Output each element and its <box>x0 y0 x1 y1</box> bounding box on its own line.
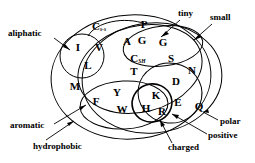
residue-V: V <box>95 41 103 53</box>
residue-A: A <box>123 35 131 47</box>
label-hydrophobic: hydrophobic <box>33 141 82 151</box>
label-aliphatic: aliphatic <box>8 28 42 38</box>
arrowhead-charged <box>160 120 165 127</box>
residue-Q: Q <box>195 100 204 112</box>
leader-polar <box>203 112 218 120</box>
residue-P: P <box>141 18 148 30</box>
residue-M: M <box>70 80 81 92</box>
venn-diagram-figure: I V L M Cs-s CSH P A G G S T N D E Q F Y… <box>0 0 255 163</box>
residue-cys-free: CSH <box>130 52 146 64</box>
set-outline-positive <box>127 79 177 128</box>
residue-G-tiny: G <box>159 36 168 48</box>
residue-K: K <box>152 89 161 101</box>
label-polar: polar <box>220 116 241 126</box>
residue-D: D <box>172 75 180 87</box>
venn-diagram-canvas: I V L M Cs-s CSH P A G G S T N D E Q F Y… <box>0 0 255 163</box>
residue-T: T <box>130 65 138 77</box>
label-aromatic: aromatic <box>10 120 44 130</box>
residue-Y: Y <box>113 86 121 98</box>
label-positive: positive <box>208 130 238 140</box>
residue-E: E <box>174 96 181 108</box>
residue-H: H <box>142 102 151 114</box>
label-tiny: tiny <box>178 8 194 18</box>
residue-W: W <box>117 103 128 115</box>
residue-R: R <box>158 105 167 117</box>
residue-L: L <box>84 59 91 71</box>
label-small: small <box>210 12 231 22</box>
arrowhead-positive <box>172 114 179 119</box>
label-charged: charged <box>168 142 199 152</box>
residue-F: F <box>93 95 100 107</box>
residue-cys-disulfide: Cs-s <box>92 20 106 32</box>
residue-I: I <box>76 41 80 53</box>
residue-S: S <box>168 52 174 64</box>
residue-G-small: G <box>138 34 147 46</box>
residue-N: N <box>188 64 196 76</box>
